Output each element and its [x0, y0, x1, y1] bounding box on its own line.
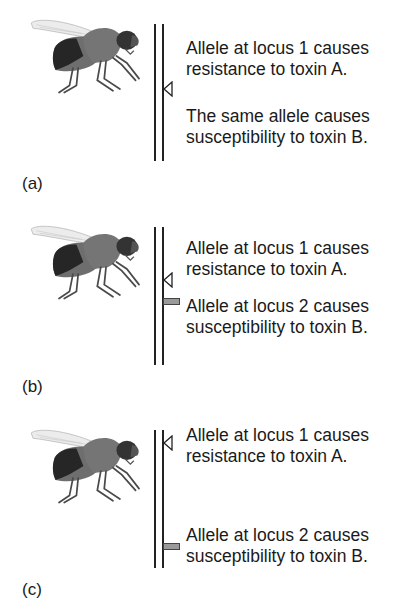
locus-2-description: Allele at locus 2 causes susceptibility …: [186, 525, 369, 567]
locus-2-bar-icon: [163, 298, 180, 305]
locus-1-triangle-icon: [163, 81, 173, 97]
chromosome-line-right: [162, 227, 164, 365]
locus-1-triangle-icon: [163, 272, 173, 288]
locus-1-description: Allele at locus 1 causes resistance to t…: [186, 425, 369, 467]
chromosome-line-left: [154, 24, 156, 161]
fruit-fly-illustration: [22, 16, 150, 96]
locus-2-bar-icon: [163, 543, 180, 550]
locus-1-triangle-icon: [163, 435, 173, 451]
pleiotropy-description: The same allele causes susceptibility to…: [186, 106, 370, 148]
chromosome-pair: [154, 227, 166, 365]
chromosome-line-left: [154, 430, 156, 568]
panel-label-b: (b): [22, 377, 43, 397]
locus-1-description: Allele at locus 1 causes resistance to t…: [186, 238, 369, 280]
panel-label-c: (c): [22, 580, 42, 600]
fruit-fly-illustration: [22, 222, 150, 302]
fruit-fly-illustration: [22, 426, 150, 506]
locus-1-description: Allele at locus 1 causes resistance to t…: [186, 38, 369, 80]
locus-2-description: Allele at locus 2 causes susceptibility …: [186, 296, 369, 338]
chromosome-line-left: [154, 227, 156, 365]
panel-label-a: (a): [22, 174, 43, 194]
